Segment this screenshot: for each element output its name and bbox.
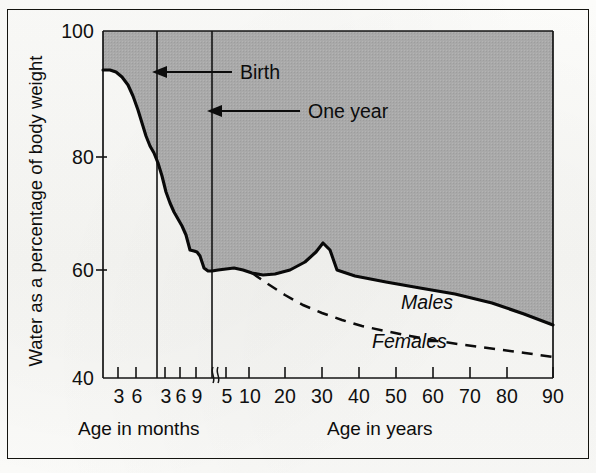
- x-ticks-prenatal: [118, 367, 136, 378]
- x-axis-title-years: Age in years: [327, 418, 433, 440]
- y-tick-label-100: 100: [44, 20, 94, 43]
- y-axis-ticks: [96, 157, 107, 270]
- x-tick-label-prenatal-3: 3: [110, 385, 128, 408]
- x-tick-label-prenatal-6: 6: [128, 385, 146, 408]
- x-tick-label-year-80: 80: [493, 385, 521, 408]
- females-series-label: Females: [372, 330, 447, 353]
- birth-annotation-label: Birth: [240, 61, 280, 84]
- x-tick-label-year-30: 30: [308, 385, 336, 408]
- x-tick-label-year-40: 40: [345, 385, 373, 408]
- males-series-label: Males: [401, 291, 453, 314]
- x-tick-label-year-5: 5: [218, 385, 236, 408]
- figure-canvas: 100 80 60 40 Water as a percentage of bo…: [0, 0, 596, 473]
- y-tick-label-60: 60: [44, 259, 94, 282]
- x-tick-label-year-50: 50: [382, 385, 410, 408]
- axis-break-marker: [212, 367, 219, 383]
- x-ticks-years: [226, 367, 553, 378]
- x-tick-label-year-60: 60: [419, 385, 447, 408]
- one-year-annotation-label: One year: [308, 100, 388, 123]
- x-tick-label-year-70: 70: [456, 385, 484, 408]
- y-tick-label-80: 80: [44, 146, 94, 169]
- x-tick-label-postnatal-9: 9: [188, 385, 206, 408]
- shaded-area-under-males: [103, 31, 553, 325]
- x-tick-label-year-10: 10: [236, 385, 264, 408]
- x-tick-label-year-20: 20: [271, 385, 299, 408]
- y-tick-label-40: 40: [44, 367, 94, 390]
- x-ticks-postnatal: [165, 367, 196, 378]
- y-axis-title: Water as a percentage of body weight: [25, 31, 47, 391]
- x-tick-label-year-90: 90: [539, 385, 567, 408]
- x-axis-title-months: Age in months: [78, 418, 199, 440]
